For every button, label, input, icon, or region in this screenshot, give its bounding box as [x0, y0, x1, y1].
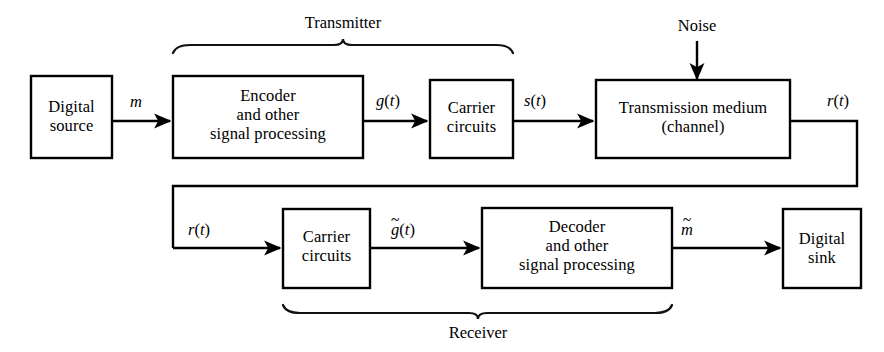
brace-transmitter	[173, 39, 513, 53]
signal-s-close-paren: )	[541, 91, 547, 110]
encoder-line3: signal processing	[210, 125, 326, 144]
signal-g-base: g	[376, 91, 384, 110]
channel-line2: (channel)	[619, 118, 767, 137]
signal-label-r-t-bottom: r(t)	[188, 221, 210, 240]
signal-label-m-tilde: m~	[681, 221, 693, 240]
digital-sink-line2: sink	[799, 249, 846, 268]
signal-label-g-tilde-t: g~(t)	[391, 221, 415, 240]
signal-label-m: m	[130, 93, 142, 112]
encoder-line1: Encoder	[210, 87, 326, 106]
block-carrier-rx-label: Carrier circuits	[302, 228, 351, 266]
block-digital-source-label: Digital source	[48, 98, 95, 136]
digital-source-line1: Digital	[48, 98, 95, 117]
block-digital-sink-label: Digital sink	[799, 230, 846, 268]
tilde-accent-icon: ~	[391, 211, 399, 229]
digital-source-line2: source	[48, 117, 95, 136]
carrier-tx-line2: circuits	[447, 118, 496, 137]
signal-m-base: m	[130, 92, 142, 111]
carrier-tx-line1: Carrier	[447, 99, 496, 118]
block-diagram-figure: Digital source Encoder and other signal …	[0, 0, 884, 352]
signal-gt-close-paren: )	[409, 220, 415, 239]
decoder-line1: Decoder	[519, 218, 635, 237]
digital-sink-line1: Digital	[799, 230, 846, 249]
block-carrier-tx-label: Carrier circuits	[447, 99, 496, 137]
brace-receiver	[283, 305, 672, 319]
annotation-noise: Noise	[678, 17, 717, 36]
signal-r-top-close-paren: )	[844, 91, 850, 110]
carrier-rx-line1: Carrier	[302, 228, 351, 247]
decoder-line2: and other	[519, 237, 635, 256]
group-label-transmitter: Transmitter	[305, 14, 381, 33]
decoder-line3: signal processing	[519, 256, 635, 275]
signal-g-tilde-group: g~	[391, 221, 399, 240]
channel-line1: Transmission medium	[619, 99, 767, 118]
block-channel-label: Transmission medium (channel)	[619, 99, 767, 137]
signal-m-tilde-group: m~	[681, 221, 693, 240]
diagram-vector-layer	[0, 0, 884, 352]
encoder-line2: and other	[210, 106, 326, 125]
signal-label-g-t: g(t)	[376, 92, 400, 111]
signal-label-r-t-top: r(t)	[827, 92, 849, 111]
block-decoder-label: Decoder and other signal processing	[519, 218, 635, 274]
signal-g-close-paren: )	[394, 91, 400, 110]
signal-r-bottom-close-paren: )	[205, 220, 211, 239]
carrier-rx-line2: circuits	[302, 247, 351, 266]
group-label-receiver: Receiver	[449, 324, 508, 343]
tilde-accent-icon: ~	[683, 211, 691, 229]
block-encoder-label: Encoder and other signal processing	[210, 87, 326, 143]
signal-label-s-t: s(t)	[524, 92, 546, 111]
